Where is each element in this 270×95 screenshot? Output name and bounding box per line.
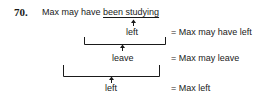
level-1-word: left <box>126 28 138 37</box>
sentence-prefix: Max may have <box>42 7 103 17</box>
bracket-1 <box>85 37 166 45</box>
level-2-gloss: = Max may leave <box>171 54 239 63</box>
example-sentence: Max may have been studying <box>42 8 159 17</box>
arrow-up-icon <box>109 77 114 81</box>
arrow-up-icon <box>120 45 125 49</box>
arrow-up-icon <box>131 20 136 24</box>
level-2-word: leave <box>112 54 134 63</box>
example-number: 70. <box>14 7 28 18</box>
level-1-gloss: = Max may have left <box>171 28 252 37</box>
level-3-gloss: = Max left <box>171 84 210 93</box>
bracket-2 <box>64 65 160 77</box>
level-3-word: left <box>105 84 117 93</box>
sentence-underlined-phrase: been studying <box>103 7 159 17</box>
